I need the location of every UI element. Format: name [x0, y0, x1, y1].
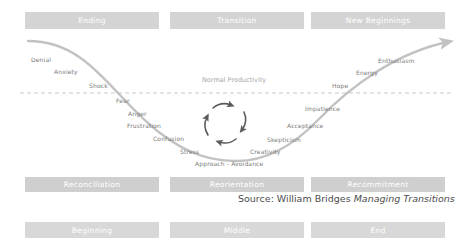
- emotion-label-approach-avoidance: Approach - Avoidance: [195, 160, 263, 167]
- emotion-label-fear: Fear: [116, 97, 130, 104]
- phase-banner-transition-label: Transition: [217, 16, 256, 25]
- emotion-label-creativity: Creativity: [250, 148, 281, 155]
- phase-banner-end-label: End: [370, 226, 385, 235]
- phase-banner-new-beginnings[interactable]: New Beginnings: [311, 12, 445, 29]
- phase-banner-new-beginnings-label: New Beginnings: [346, 16, 411, 25]
- emotion-label-anxiety: Anxiety: [54, 68, 78, 75]
- phase-banner-ending-label: Ending: [78, 16, 106, 25]
- phase-banner-middle[interactable]: Middle: [170, 222, 304, 238]
- emotion-label-stress: Stress: [180, 148, 199, 155]
- emotion-label-shock: Shock: [89, 82, 108, 89]
- phase-banner-reorientation[interactable]: Reorientation: [170, 177, 304, 192]
- source-attribution: Source: William Bridges Managing Transit…: [238, 193, 455, 204]
- phase-banner-beginning-label: Beginning: [72, 226, 112, 235]
- phase-banner-reconciliation[interactable]: Reconciliation: [25, 177, 159, 192]
- change-curve-diagram: Normal Productivity Ending Transition Ne…: [0, 0, 469, 249]
- emotion-label-enthusiasm: Enthusiasm: [378, 57, 415, 64]
- transition-cycle-arrows: [205, 104, 245, 143]
- emotion-label-impatience: Impatience: [305, 105, 340, 112]
- phase-banner-ending[interactable]: Ending: [25, 12, 159, 29]
- emotion-label-denial: Denial: [31, 56, 51, 63]
- phase-banner-recommitment[interactable]: Recommitment: [311, 177, 445, 192]
- emotion-label-skepticism: Skepticism: [267, 136, 301, 143]
- emotion-label-acceptance: Acceptance: [287, 122, 323, 129]
- phase-banner-reconciliation-label: Reconciliation: [64, 180, 121, 189]
- phase-banner-recommitment-label: Recommitment: [347, 180, 408, 189]
- emotion-label-hope: Hope: [332, 82, 348, 89]
- phase-banner-reorientation-label: Reorientation: [210, 180, 264, 189]
- emotion-label-confusion: Confusion: [153, 135, 184, 142]
- phase-banner-beginning[interactable]: Beginning: [25, 222, 159, 238]
- emotion-label-anger: Anger: [128, 110, 147, 117]
- phase-banner-end[interactable]: End: [311, 222, 445, 238]
- source-work-title: Managing Transitions: [354, 193, 455, 204]
- baseline-label: Normal Productivity: [202, 76, 266, 84]
- diagram-artwork: [0, 0, 469, 249]
- emotion-label-frustration: Frustration: [127, 122, 161, 129]
- phase-banner-middle-label: Middle: [224, 226, 251, 235]
- phase-banner-transition[interactable]: Transition: [170, 12, 304, 29]
- emotion-label-energy: Energy: [356, 69, 378, 76]
- source-prefix: Source: William Bridges: [238, 193, 354, 204]
